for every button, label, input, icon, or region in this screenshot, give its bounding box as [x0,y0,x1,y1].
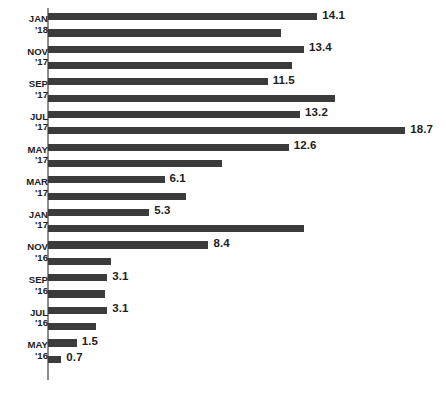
bar[interactable] [48,241,208,248]
bar-row: 18.7 [0,127,446,143]
tick-label-year: '16 [27,253,48,264]
bar[interactable] [48,193,186,200]
bar[interactable] [48,62,292,69]
bar[interactable] [48,225,304,232]
bar-row [0,62,446,78]
bar-value-label: 14.1 [322,9,345,21]
bar[interactable] [48,78,268,85]
bar-row [0,29,446,45]
bar[interactable] [48,46,304,53]
bar-row [0,160,446,176]
bar-value-label: 11.5 [273,74,295,86]
bar-row: 3.1 [0,274,446,290]
bar[interactable] [48,209,149,216]
bar[interactable] [48,29,281,36]
bar[interactable] [48,339,77,346]
tick-label-year: '18 [29,25,48,36]
bar-row: 5.3 [0,209,446,225]
tick-label-year: '16 [29,286,48,297]
bar-row: 14.1 [0,13,446,29]
bar-row [0,258,446,274]
bar-row: 8.4 [0,241,446,257]
y-axis-tick-label: SEP'16 [29,275,48,296]
bar[interactable] [48,95,335,102]
bar-row [0,193,446,209]
y-axis-tick-label: JAN'17 [29,210,48,231]
bar-row: 6.1 [0,176,446,192]
bar-row: 3.1 [0,307,446,323]
bar-value-label: 13.4 [309,41,332,53]
bar-value-label: 6.1 [170,172,186,184]
tick-label-year: '17 [30,122,48,133]
bar[interactable] [48,127,405,134]
bar-value-label: 8.4 [213,237,229,249]
bar[interactable] [48,111,300,118]
bar[interactable] [48,307,107,314]
bar[interactable] [48,144,289,151]
bar-row: 11.5 [0,78,446,94]
bar-row [0,290,446,306]
y-axis-tick-label: JUL'17 [30,112,48,133]
bar[interactable] [48,356,61,363]
tick-label-year: '16 [30,318,48,329]
bar-value-label: 3.1 [112,302,128,314]
bar[interactable] [48,176,165,183]
bar-value-label: 13.2 [305,106,328,118]
bar-value-label: 18.7 [410,123,433,135]
tick-label-year: '17 [27,57,48,68]
bar[interactable] [48,323,96,330]
y-axis-tick-label: MAR'17 [26,177,48,198]
bar-row [0,95,446,111]
y-axis-tick-label: NOV'17 [27,47,48,68]
y-axis-tick-label: SEP'17 [29,79,48,100]
bar[interactable] [48,274,107,281]
bar[interactable] [48,160,222,167]
y-axis-tick-label: MAY'16 [28,340,48,361]
tick-label-year: '16 [28,351,48,362]
bar[interactable] [48,13,317,20]
bar-row: 12.6 [0,144,446,160]
tick-label-year: '17 [26,188,48,199]
y-axis-tick-label: NOV'16 [27,242,48,263]
tick-label-year: '17 [28,155,48,166]
tick-label-year: '17 [29,90,48,101]
bar-row: 0.7 [0,356,446,372]
tick-label-year: '17 [29,220,48,231]
bar-value-label: 3.1 [112,270,128,282]
plot-area: 14.113.411.513.218.712.66.15.38.43.13.11… [0,0,446,396]
bar[interactable] [48,290,105,297]
bar-chart: 14.113.411.513.218.712.66.15.38.43.13.11… [0,0,446,396]
bar-value-label: 12.6 [294,139,317,151]
bar-row [0,323,446,339]
bar-value-label: 0.7 [66,351,82,363]
tick-label-month: JAN [29,14,48,25]
bar-row: 13.4 [0,46,446,62]
bar-value-label: 5.3 [154,204,170,216]
y-axis-tick-label: JUL'16 [30,308,48,329]
bar-row: 13.2 [0,111,446,127]
y-axis-tick-label: MAY'17 [28,145,48,166]
y-axis-tick-label: JAN'18 [29,14,48,35]
bar-value-label: 1.5 [82,335,98,347]
bar[interactable] [48,258,111,265]
